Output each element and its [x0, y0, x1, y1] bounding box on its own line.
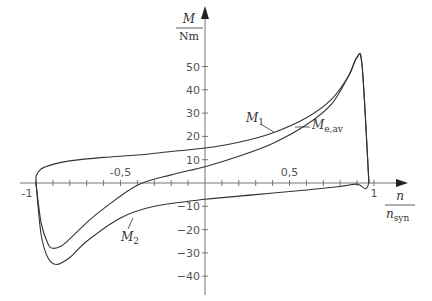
- label-m2: M2: [120, 230, 139, 246]
- y-tick-label: 30: [186, 107, 200, 120]
- x-tick-label: 0,5: [281, 166, 299, 179]
- x-tick-label: -0,5: [110, 166, 131, 179]
- x-axis-label-num: n: [396, 189, 404, 203]
- y-tick-label: 20: [186, 130, 200, 143]
- axes: [20, 6, 408, 295]
- curves: [36, 53, 369, 264]
- y-tick-label: 10: [186, 154, 200, 167]
- y-tick-label: −30: [177, 247, 200, 260]
- y-axis-label-num: M: [182, 12, 196, 26]
- label-m1-leader: [262, 125, 274, 132]
- label-meav: Me,av: [311, 118, 344, 134]
- y-axis-arrow-icon: [201, 6, 209, 19]
- label-m1: M1: [245, 111, 264, 127]
- curve-meav: [36, 53, 369, 248]
- ticks: -1-0,50,515040302010−10−20−30−40: [22, 61, 378, 284]
- x-tick-label: 1: [371, 187, 378, 200]
- y-axis-label-den: Nm: [179, 30, 200, 43]
- y-tick-label: −20: [177, 224, 200, 237]
- x-axis-label-den: nsyn: [386, 207, 409, 223]
- x-tick-label: -1: [22, 187, 33, 200]
- label-m2-leader: [128, 218, 133, 229]
- y-tick-label: −40: [177, 270, 200, 283]
- y-tick-label: 50: [186, 61, 200, 74]
- torque-speed-chart: -1-0,50,515040302010−10−20−30−40 M Nm n …: [0, 0, 432, 301]
- y-tick-label: 40: [186, 84, 200, 97]
- x-axis-arrow-icon: [396, 179, 408, 187]
